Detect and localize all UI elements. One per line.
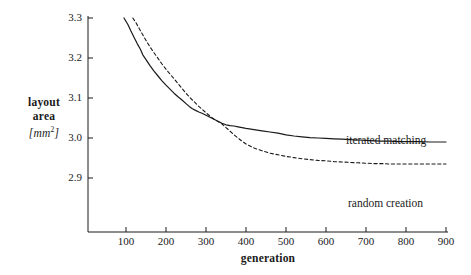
y-axis-unit: [mm2] (8, 123, 80, 140)
x-axis-tick-label: 700 (346, 235, 386, 247)
y-axis-tick-label: 3.2 (52, 51, 82, 63)
y-axis-unit-close: ] (54, 127, 59, 139)
x-axis-tick-label: 100 (106, 235, 146, 247)
x-axis-tick-label: 500 (266, 235, 306, 247)
x-axis-tick-label: 400 (226, 235, 266, 247)
x-axis-ticks (126, 227, 446, 232)
y-axis-tick-label: 2.9 (52, 171, 82, 183)
x-axis-tick-label: 600 (306, 235, 346, 247)
x-axis-tick-label: 300 (186, 235, 226, 247)
x-axis-tick-label: 800 (386, 235, 426, 247)
series-label-iterated-matching: iterated matching (346, 134, 426, 146)
y-axis-ticks (88, 18, 93, 178)
x-axis-title: generation (88, 252, 448, 264)
x-axis-tick-label: 200 (146, 235, 186, 247)
chart-page: 2.93.03.13.23.3 100200300400500600700800… (0, 0, 471, 275)
y-axis-title-line-2: area (8, 110, 80, 124)
y-axis-tick-label: 3.3 (52, 11, 82, 23)
y-axis-title: layout area [mm2] (8, 96, 80, 140)
series-line-iterated-matching (124, 18, 446, 142)
x-axis-tick-label: 900 (426, 235, 466, 247)
y-axis-unit-base: [mm (29, 127, 51, 139)
y-axis-title-line-1: layout (8, 96, 80, 110)
series-label-random-creation: random creation (348, 197, 423, 209)
